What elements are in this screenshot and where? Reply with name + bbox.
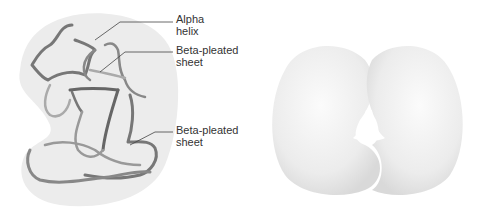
label-line: Beta-pleated bbox=[176, 44, 238, 56]
label-beta-pleated-sheet-1: Beta-pleated sheet bbox=[176, 44, 238, 68]
label-line: sheet bbox=[176, 136, 238, 148]
beta-sheet-ribbon-upper bbox=[70, 89, 118, 91]
label-beta-pleated-sheet-2: Beta-pleated sheet bbox=[176, 124, 238, 148]
label-line: sheet bbox=[176, 56, 238, 68]
space-filling-model bbox=[272, 46, 463, 195]
right-lobe bbox=[367, 46, 463, 195]
label-line: helix bbox=[176, 25, 204, 37]
protein-ribbon-diagram bbox=[19, 13, 178, 206]
label-line: Alpha bbox=[176, 13, 204, 25]
label-line: Beta-pleated bbox=[176, 124, 238, 136]
diagram-canvas bbox=[0, 0, 495, 214]
label-alpha-helix: Alpha helix bbox=[176, 13, 204, 37]
